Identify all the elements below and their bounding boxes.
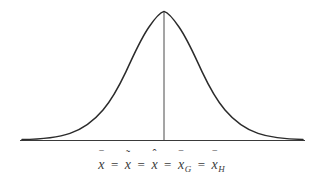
term-arithmetic-mean: ‾x	[98, 158, 104, 172]
subscript-g: G	[185, 164, 192, 174]
term-median: ˜x	[125, 158, 131, 172]
variable-x: x	[151, 157, 157, 172]
caption-equation: ‾x = ˜x = ˆx = ‾xG = ‾xH	[0, 158, 323, 174]
term-geometric-mean: ‾x	[178, 158, 184, 172]
variable-x: x	[212, 157, 218, 172]
variable-x: x	[178, 157, 184, 172]
equals-sign-2: =	[138, 157, 145, 172]
equals-sign-1: =	[111, 157, 118, 172]
equals-sign-3: =	[164, 157, 171, 172]
term-harmonic-mean: ‾x	[212, 158, 218, 172]
term-mode: ˆx	[151, 158, 157, 172]
equals-sign-4: =	[198, 157, 205, 172]
variable-x: x	[98, 157, 104, 172]
figure-container: ‾x = ˜x = ˆx = ‾xG = ‾xH	[0, 0, 323, 190]
variable-x: x	[125, 157, 131, 172]
subscript-h: H	[218, 164, 225, 174]
